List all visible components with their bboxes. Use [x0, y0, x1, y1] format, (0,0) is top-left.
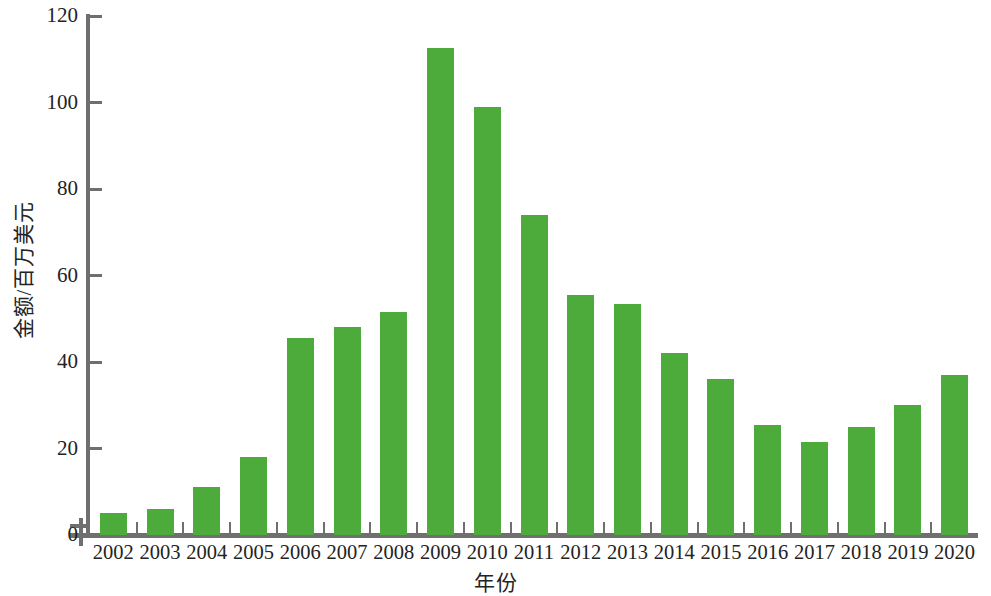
x-axis-tick-label: 2015 [698, 541, 745, 564]
bar-2013 [614, 304, 641, 535]
x-axis-tick-label: 2018 [838, 541, 885, 564]
bar-2007 [334, 327, 361, 535]
bar-2015 [707, 379, 734, 535]
x-axis-tick-label: 2012 [557, 541, 604, 564]
x-axis-tick-label: 2010 [464, 541, 511, 564]
bar-2020 [941, 375, 968, 535]
bars-layer [0, 0, 991, 535]
x-axis-tick-label: 2019 [885, 541, 932, 564]
x-axis-tick-label: 2003 [137, 541, 184, 564]
x-axis-tick-label: 2002 [90, 541, 137, 564]
x-axis-tick-label: 2006 [277, 541, 324, 564]
bar-2006 [287, 338, 314, 535]
bar-2019 [894, 405, 921, 535]
x-axis-tick-label: 2004 [183, 541, 230, 564]
x-axis-tick-label: 2013 [604, 541, 651, 564]
bar-2018 [848, 427, 875, 535]
x-axis-tick-label: 2005 [230, 541, 277, 564]
bar-2010 [474, 107, 501, 535]
x-axis-tick-label: 2009 [417, 541, 464, 564]
bar-2017 [801, 442, 828, 535]
bar-2012 [567, 295, 594, 535]
x-axis-tick-label: 2011 [511, 541, 558, 564]
bar-2008 [380, 312, 407, 535]
x-axis-tick-label: 2007 [324, 541, 371, 564]
bar-2004 [193, 487, 220, 535]
x-axis-tick-label: 2020 [931, 541, 978, 564]
x-axis-tick-label: 2014 [651, 541, 698, 564]
bar-2009 [427, 48, 454, 535]
bar-2011 [521, 215, 548, 535]
bar-2016 [754, 425, 781, 535]
bar-2005 [240, 457, 267, 535]
x-axis-tick-label: 2016 [744, 541, 791, 564]
x-axis-tick-label: 2008 [370, 541, 417, 564]
bar-2003 [147, 509, 174, 535]
bar-chart: 金额/百万美元 020406080100120 2002200320042005… [0, 0, 991, 596]
bar-2002 [100, 513, 127, 535]
bar-2014 [661, 353, 688, 535]
x-axis-tick-label: 2017 [791, 541, 838, 564]
x-axis-title: 年份 [0, 566, 991, 596]
